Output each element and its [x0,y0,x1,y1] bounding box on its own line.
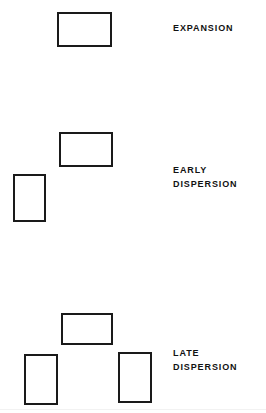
late-dispersion-box-1 [61,313,113,345]
diagram-canvas: EXPANSION EARLY DISPERSION LATE DISPERSI… [0,0,266,413]
group-late-dispersion: LATE DISPERSION [0,0,266,413]
label-late-dispersion: LATE DISPERSION [173,347,238,374]
late-dispersion-box-3 [118,352,152,403]
late-dispersion-box-2 [24,354,58,405]
scan-line-artifact [0,409,266,410]
